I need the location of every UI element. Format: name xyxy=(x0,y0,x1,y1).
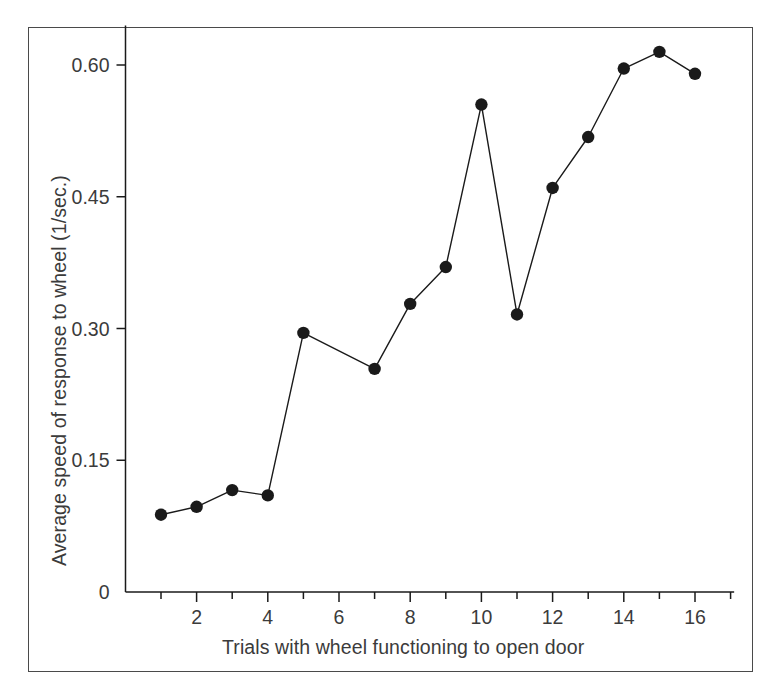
x-tick-label: 12 xyxy=(542,606,564,629)
data-point-marker xyxy=(618,62,630,74)
axes-layer xyxy=(117,25,735,602)
x-tick-label: 2 xyxy=(191,606,202,629)
data-point-marker xyxy=(226,484,238,496)
data-point-marker xyxy=(475,98,487,110)
data-point-marker xyxy=(582,131,594,143)
x-tick-label: 4 xyxy=(262,606,273,629)
x-tick-label: 14 xyxy=(613,606,635,629)
plot-canvas xyxy=(0,0,780,692)
data-point-marker xyxy=(155,509,167,521)
x-tick-label: 6 xyxy=(334,606,345,629)
data-point-marker xyxy=(404,298,416,310)
data-point-marker xyxy=(297,327,309,339)
data-point-marker xyxy=(546,182,558,194)
data-point-marker xyxy=(511,308,523,320)
data-point-marker xyxy=(689,68,701,80)
y-tick-label: 0.45 xyxy=(72,185,110,208)
data-line xyxy=(161,52,695,515)
data-point-marker xyxy=(368,363,380,375)
y-axis-title: Average speed of response to wheel (1/se… xyxy=(48,175,71,566)
figure-root: Average speed of response to wheel (1/se… xyxy=(0,0,780,692)
x-tick-label: 16 xyxy=(684,606,706,629)
y-tick-label: 0.15 xyxy=(72,449,110,472)
data-series-layer xyxy=(155,46,701,521)
x-tick-label: 8 xyxy=(405,606,416,629)
data-point-marker xyxy=(262,489,274,501)
y-tick-label: 0.60 xyxy=(72,54,110,77)
data-point-marker xyxy=(440,261,452,273)
y-tick-label: 0.30 xyxy=(72,317,110,340)
data-point-marker xyxy=(653,46,665,58)
x-axis-title: Trials with wheel functioning to open do… xyxy=(222,636,584,659)
data-point-marker xyxy=(190,501,202,513)
x-tick-label: 10 xyxy=(471,606,493,629)
y-tick-label: 0 xyxy=(99,581,110,604)
